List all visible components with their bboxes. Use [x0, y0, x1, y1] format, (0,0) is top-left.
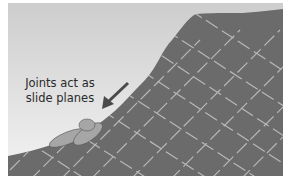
annotation-line-2: slide planes [20, 91, 100, 106]
joints-annotation: Joints act as slide planes [20, 76, 100, 106]
annotation-line-1: Joints act as [20, 76, 100, 91]
diagram-frame: Joints act as slide planes [0, 0, 287, 184]
